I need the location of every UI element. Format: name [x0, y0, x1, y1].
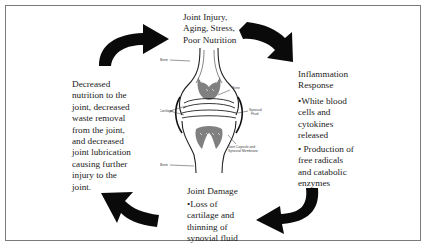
stage-right-title: Inflammation Response: [298, 69, 418, 92]
stage-left-label: Decreased nutrition to the joint, decrea…: [72, 79, 162, 193]
label-bone-inner: Bone: [232, 86, 240, 90]
curved-arrow-icon: [95, 187, 161, 229]
knee-joint-illustration: Bone Bone Cartilage Synovial Fluid Joint…: [160, 45, 280, 173]
curved-arrow-icon: [254, 186, 320, 236]
label-synovial-fluid-2: Fluid: [251, 112, 258, 116]
stage-right-bullet-2: • Production of free radicals and catabo…: [298, 144, 418, 190]
label-capsule-2: Synovial Membrane: [228, 149, 258, 153]
label-bone-bottom: Bone: [160, 163, 168, 167]
label-cartilage: Cartilage: [160, 109, 173, 113]
label-bone-top: Bone: [160, 58, 168, 62]
stage-right-bullet-1: •White blood cells and cytokines release…: [298, 96, 418, 142]
